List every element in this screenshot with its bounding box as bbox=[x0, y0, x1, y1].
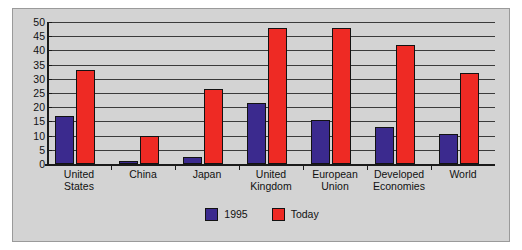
x-axis-category-label: China bbox=[111, 169, 175, 181]
y-axis-labels: 50 45 40 35 30 25 20 15 10 5 0 bbox=[13, 22, 45, 164]
y-axis-tick bbox=[47, 121, 52, 122]
y-axis-tick-label: 30 bbox=[19, 74, 45, 85]
y-axis-tick bbox=[47, 150, 52, 151]
bar-1995 bbox=[119, 161, 138, 164]
bar-1995 bbox=[375, 127, 394, 164]
bar-today bbox=[76, 70, 95, 164]
legend-label: 1995 bbox=[224, 209, 247, 220]
bar-group bbox=[367, 22, 431, 164]
y-axis-tick bbox=[47, 36, 52, 37]
x-axis-category-label: European Union bbox=[303, 169, 367, 192]
y-axis-tick bbox=[47, 50, 52, 51]
y-axis-tick-label: 50 bbox=[19, 17, 45, 28]
x-axis-category-label: Japan bbox=[175, 169, 239, 181]
bar-1995 bbox=[439, 134, 458, 164]
bar-1995 bbox=[183, 157, 202, 164]
x-axis-category-label: United States bbox=[47, 169, 111, 192]
legend-label: Today bbox=[291, 209, 319, 220]
y-axis-tick-label: 45 bbox=[19, 31, 45, 42]
x-axis-category-label: Developed Economies bbox=[367, 169, 431, 192]
chart-legend: 1995 Today bbox=[13, 208, 511, 221]
bar-today bbox=[396, 45, 415, 164]
y-axis-tick-label: 0 bbox=[19, 159, 45, 170]
y-axis-tick-label: 10 bbox=[19, 130, 45, 141]
legend-swatch-icon bbox=[205, 208, 218, 221]
y-axis-tick-label: 5 bbox=[19, 145, 45, 156]
bar-group bbox=[239, 22, 303, 164]
x-axis-labels: United StatesChinaJapanUnited KingdomEur… bbox=[47, 169, 495, 203]
y-axis-tick bbox=[47, 136, 52, 137]
y-axis-tick-label: 25 bbox=[19, 88, 45, 99]
y-axis-tick-label: 40 bbox=[19, 45, 45, 56]
y-axis-tick bbox=[47, 164, 52, 165]
bar-today bbox=[140, 136, 159, 164]
bar-group bbox=[303, 22, 367, 164]
bar-group bbox=[431, 22, 495, 164]
y-axis-tick bbox=[47, 65, 52, 66]
y-axis-tick-label: 15 bbox=[19, 116, 45, 127]
x-axis-category-label: World bbox=[431, 169, 495, 181]
y-axis-tick-label: 35 bbox=[19, 59, 45, 70]
legend-swatch-icon bbox=[272, 208, 285, 221]
legend-item-today: Today bbox=[272, 208, 319, 221]
bar-group bbox=[175, 22, 239, 164]
y-axis-tick bbox=[47, 22, 52, 23]
x-axis-category-label: United Kingdom bbox=[239, 169, 303, 192]
bar-today bbox=[268, 28, 287, 164]
legend-item-1995: 1995 bbox=[205, 208, 247, 221]
bar-today bbox=[460, 73, 479, 164]
bar-today bbox=[332, 28, 351, 164]
plot-area bbox=[47, 22, 495, 164]
bar-1995 bbox=[55, 116, 74, 164]
bar-group bbox=[111, 22, 175, 164]
y-axis-tick-label: 20 bbox=[19, 102, 45, 113]
bar-1995 bbox=[311, 120, 330, 164]
bar-today bbox=[204, 89, 223, 164]
bar-chart-figure: 50 45 40 35 30 25 20 15 10 5 0 United St… bbox=[12, 8, 510, 242]
y-axis-tick bbox=[47, 79, 52, 80]
y-axis-tick bbox=[47, 107, 52, 108]
y-axis-tick bbox=[47, 93, 52, 94]
x-axis-line bbox=[45, 164, 495, 166]
bar-group bbox=[47, 22, 111, 164]
bar-1995 bbox=[247, 103, 266, 164]
